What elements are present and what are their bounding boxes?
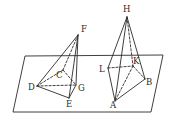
label-b: B: [146, 77, 152, 87]
right-pyramid: [108, 17, 145, 101]
edge-dg: [37, 85, 76, 86]
label-k: K: [133, 56, 140, 66]
label-c: C: [56, 70, 63, 80]
left-pyramid: [37, 35, 78, 98]
edge-hl: [108, 17, 127, 68]
label-f: F: [81, 24, 87, 34]
label-d: D: [28, 82, 35, 92]
label-l: L: [99, 64, 105, 74]
label-g: G: [78, 83, 85, 93]
edge-ab: [115, 79, 145, 101]
edge-la: [108, 68, 115, 101]
edge-lk: [108, 66, 133, 68]
edge-cg: [63, 70, 76, 85]
vertex-labels: F C D G E H L K B A: [28, 4, 152, 110]
label-h: H: [123, 4, 130, 14]
edge-de: [37, 86, 69, 98]
label-a: A: [109, 100, 117, 110]
label-e: E: [66, 99, 72, 109]
geometry-diagram: F C D G E H L K B A: [0, 0, 174, 127]
